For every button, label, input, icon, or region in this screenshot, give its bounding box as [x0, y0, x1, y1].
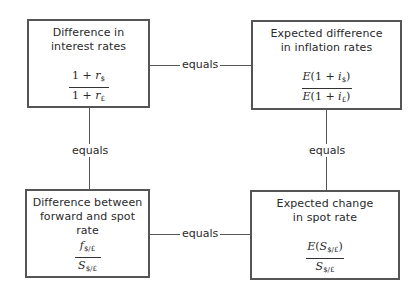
equals-label-top: equals	[180, 58, 220, 71]
equals-label-right: equals	[307, 144, 347, 157]
forward-spot-title: Difference between forward and spot rate	[27, 196, 148, 238]
spot-change-title: Expected change in spot rate	[252, 197, 398, 225]
spot-change-formula: E(S$/£) S$/£	[252, 240, 398, 277]
interest-rate-box: Difference in interest rates 1 + r$ 1 + …	[27, 19, 150, 108]
inflation-rate-box: Expected difference in inflation rates E…	[251, 20, 402, 110]
forward-spot-box: Difference between forward and spot rate…	[25, 189, 150, 278]
interest-rate-title: Difference in interest rates	[29, 26, 148, 54]
inflation-rate-title: Expected difference in inflation rates	[253, 27, 400, 55]
interest-rate-formula: 1 + r$ 1 + r£	[29, 69, 148, 106]
forward-spot-formula: f$/£ S$/£	[27, 239, 148, 276]
inflation-rate-formula: E(1 + i$) E(1 + i£)	[253, 70, 400, 107]
spot-change-box: Expected change in spot rate E(S$/£) S$/…	[250, 190, 400, 280]
equals-label-bottom: equals	[180, 227, 220, 240]
equals-label-left: equals	[70, 144, 110, 157]
